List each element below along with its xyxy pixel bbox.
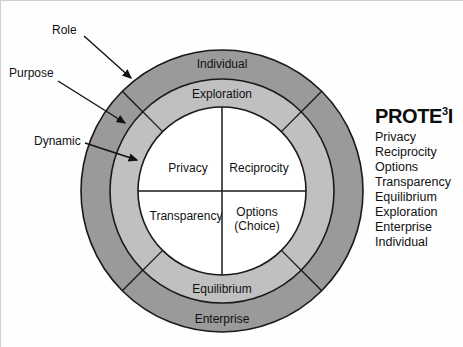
legend-item: Individual (375, 235, 463, 250)
quadrant-label-transparency: Transparency (150, 209, 223, 223)
quadrant-label-privacy: Privacy (168, 161, 207, 175)
legend-item: Equilibrium (375, 190, 463, 205)
legend-item: Privacy (375, 130, 463, 145)
legend-title-main: PROTE (375, 105, 442, 127)
legend-item: Transparency (375, 175, 463, 190)
legend-item: Enterprise (375, 220, 463, 235)
legend-panel: PROTE3I Privacy Reciprocity Options Tran… (375, 106, 463, 250)
outer-ring-top-label: Individual (197, 57, 248, 71)
legend-item: Exploration (375, 205, 463, 220)
quadrant-label-options-choice: (Choice) (234, 219, 279, 233)
legend-item: Reciprocity (375, 145, 463, 160)
outer-ring-bottom-label: Enterprise (195, 312, 250, 326)
callout-label-purpose: Purpose (9, 66, 54, 80)
middle-ring-bottom-label: Equilibrium (192, 282, 251, 296)
legend-item: Options (375, 160, 463, 175)
quadrant-label-options: Options (236, 205, 277, 219)
middle-ring-top-label: Exploration (192, 87, 252, 101)
diagram-canvas: Individual Enterprise Exploration Equili… (0, 0, 463, 347)
callout-label-role: Role (52, 23, 77, 37)
legend-title: PROTE3I (375, 106, 463, 126)
legend-list: Privacy Reciprocity Options Transparency… (375, 130, 463, 250)
callout-label-dynamic: Dynamic (34, 134, 81, 148)
quadrant-label-reciprocity: Reciprocity (229, 161, 288, 175)
legend-title-tail: I (448, 105, 453, 127)
callout-arrow-role (84, 36, 131, 78)
